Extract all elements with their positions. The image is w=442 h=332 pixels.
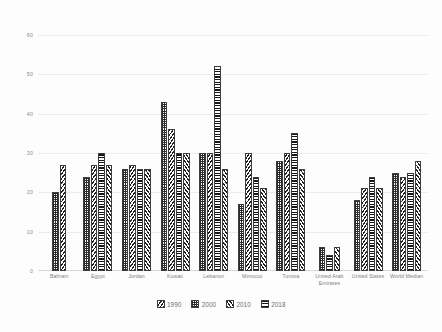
bar [326,255,333,271]
x-axis-label: Bahrain [40,273,79,287]
bar-group [272,35,311,271]
legend-swatch-icon [226,300,234,308]
bar [83,177,90,271]
bar [183,153,190,271]
bar-group [194,35,233,271]
bar [52,192,59,271]
bar [376,188,383,271]
legend: 1990200020102018 [0,300,442,308]
legend-item[interactable]: 1990 [157,300,182,308]
x-axis-label: Morocco [233,273,272,287]
bar [122,169,129,271]
bar [168,129,175,271]
bar [392,173,399,271]
bar [407,173,414,271]
bar [106,165,113,271]
bar [98,153,105,271]
x-axis-label: Lebanon [194,273,233,287]
legend-swatch-icon [191,300,199,308]
bar-group [387,35,426,271]
plot-area: 0102030405060 [38,35,428,271]
x-axis-label: Tunisia [272,273,311,287]
y-tick-label: 10 [27,229,33,235]
bar [276,161,283,271]
bar [369,177,376,271]
bar [207,153,214,271]
bar [260,188,267,271]
bar [334,247,341,271]
bar [319,247,326,271]
legend-label: 1990 [167,301,181,308]
bar [214,66,221,271]
legend-item[interactable]: 2010 [226,300,251,308]
bar [144,169,151,271]
legend-label: 2000 [202,301,216,308]
bar [161,102,168,271]
x-axis-labels: BahrainEgyptJordanKuwaitLebanonMoroccoTu… [38,273,428,287]
bar [60,165,67,271]
x-axis-label: Egypt [79,273,118,287]
legend-swatch-icon [261,300,269,308]
x-axis-label: United States [349,273,388,287]
y-tick-label: 0 [30,268,33,274]
bar-group [40,35,79,271]
y-tick-label: 60 [27,32,33,38]
bar [245,153,252,271]
bar [129,165,136,271]
bar [176,153,183,271]
bar [238,204,245,271]
bar [400,177,407,271]
y-tick-label: 50 [27,71,33,77]
bar [137,169,144,271]
bar-group [156,35,195,271]
bar [291,133,298,271]
bar [354,200,361,271]
bar-group [79,35,118,271]
bar [415,161,422,271]
bar-group [310,35,349,271]
bar [299,169,306,271]
bar [222,169,229,271]
legend-swatch-icon [157,300,165,308]
legend-item[interactable]: 2000 [191,300,216,308]
x-axis-label: Jordan [117,273,156,287]
bar-group [117,35,156,271]
bar [253,177,260,271]
bar [284,153,291,271]
legend-item[interactable]: 2018 [261,300,286,308]
bar-group [233,35,272,271]
bar [361,188,368,271]
bar [91,165,98,271]
bar-groups [38,35,428,271]
bar [199,153,206,271]
x-axis-label: United Arab Emirates [310,273,349,287]
bar-group [349,35,388,271]
y-tick-label: 40 [27,111,33,117]
y-tick-label: 20 [27,189,33,195]
y-tick-label: 30 [27,150,33,156]
legend-label: 2010 [237,301,251,308]
x-axis-label: Kuwait [156,273,195,287]
x-axis-label: World Median [387,273,426,287]
legend-label: 2018 [271,301,285,308]
bar-chart: 0102030405060 BahrainEgyptJordanKuwaitLe… [0,0,442,332]
